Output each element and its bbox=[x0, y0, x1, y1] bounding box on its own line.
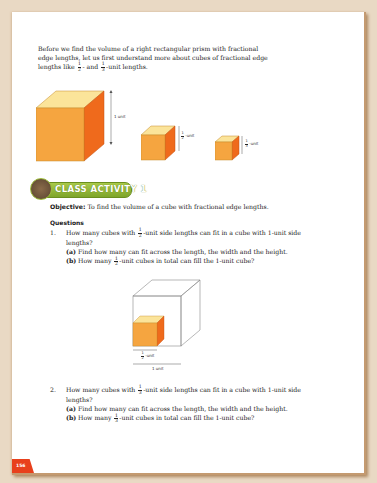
one-unit-label: 1 unit bbox=[114, 114, 126, 119]
question-2: 2.How many cubes with 13-unit side lengt… bbox=[50, 385, 350, 424]
activity-badge-icon bbox=[30, 178, 52, 200]
fraction-half: 12 bbox=[78, 62, 82, 72]
intro-line-1: Before we find the volume of a right rec… bbox=[38, 44, 338, 53]
intro-line-2: edge lengths, let us first understand mo… bbox=[38, 53, 338, 62]
class-activity-title: CLASS ACTIVITY 1 bbox=[55, 183, 147, 196]
fraction-third: 13 bbox=[101, 62, 105, 72]
intro-line-3: lengths like 12- and 13-unit lengths. bbox=[38, 62, 338, 72]
question-1b: (b)How many 12-unit cubes in total can f… bbox=[50, 256, 350, 266]
question-1a: (a)Find how many can fit across the leng… bbox=[50, 247, 350, 256]
third-unit-cube-figure bbox=[215, 135, 245, 163]
question-2a: (a)Find how many can fit across the leng… bbox=[50, 404, 350, 413]
one-unit-cube-figure bbox=[36, 88, 116, 168]
questions-heading: Questions bbox=[50, 219, 84, 226]
third-unit-label: 13-unit bbox=[244, 140, 258, 148]
question-1: 1.How many cubes with 12-unit side lengt… bbox=[50, 228, 350, 267]
diagram-one-unit-label: 1 unit bbox=[152, 366, 164, 371]
question-2b: (b)How many 13-unit cubes in total can f… bbox=[50, 413, 350, 423]
diagram-half-unit-label: 12-unit bbox=[140, 352, 154, 360]
objective: Objective: To find the volume of a cube … bbox=[50, 202, 269, 211]
half-unit-cube-figure bbox=[141, 124, 181, 164]
objective-label: Objective: bbox=[50, 203, 85, 210]
half-unit-label: 12-unit bbox=[180, 132, 194, 140]
objective-text: To find the volume of a cube with fracti… bbox=[87, 203, 268, 210]
intro-paragraph: Before we find the volume of a right rec… bbox=[38, 44, 338, 72]
